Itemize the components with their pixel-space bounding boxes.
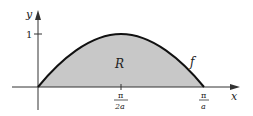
region-label: R (114, 57, 124, 71)
x-tick-half-numerator: π (118, 91, 123, 100)
sine-region-diagram: y x 1 R f π 2a π a (0, 0, 253, 116)
x-tick-half-denominator: 2a (114, 102, 125, 111)
x-tick-end-numerator: π (201, 91, 206, 100)
y-axis-arrow-icon (35, 10, 41, 20)
x-axis-label: x (231, 90, 238, 103)
x-tick-end-denominator: a (201, 102, 206, 111)
function-label: f (189, 55, 197, 69)
y-tick-label: 1 (26, 29, 32, 40)
y-axis-label: y (25, 8, 33, 21)
